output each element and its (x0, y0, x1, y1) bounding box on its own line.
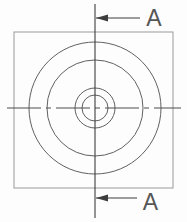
part-outline-square (14, 32, 173, 188)
arrow-head-left-icon (96, 14, 108, 21)
section-label-top: A (146, 5, 162, 31)
engineering-drawing: A A (0, 0, 187, 222)
section-arrow-top: A (96, 5, 162, 31)
section-arrow-bottom: A (96, 189, 159, 215)
section-label-bottom: A (143, 189, 159, 215)
arrow-head-left-icon (96, 194, 108, 201)
